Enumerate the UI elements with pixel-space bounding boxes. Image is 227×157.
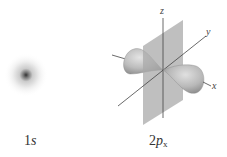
label-2px-letter: p — [156, 133, 163, 148]
label-1s: 1s — [24, 133, 36, 149]
x-axis-label: x — [212, 80, 216, 91]
label-1s-num: 1 — [24, 133, 31, 148]
label-2px-num: 2 — [149, 133, 156, 148]
label-2px-sub: x — [163, 139, 168, 149]
y-axis-label: y — [206, 26, 210, 37]
z-axis-label: z — [160, 5, 164, 16]
label-1s-letter: s — [31, 133, 36, 148]
label-2px: 2px — [149, 133, 168, 149]
1s-orbital-cloud — [4, 53, 48, 97]
